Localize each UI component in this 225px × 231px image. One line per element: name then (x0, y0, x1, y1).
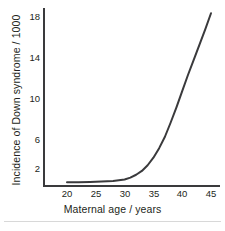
x-axis-title: Maternal age / years (0, 203, 225, 215)
chart-plot-area (0, 0, 225, 231)
bottom-divider (4, 221, 221, 222)
chart-figure: Incidence of Down syndrome / 1000 18 14 … (0, 0, 225, 231)
data-series-line (67, 13, 211, 182)
